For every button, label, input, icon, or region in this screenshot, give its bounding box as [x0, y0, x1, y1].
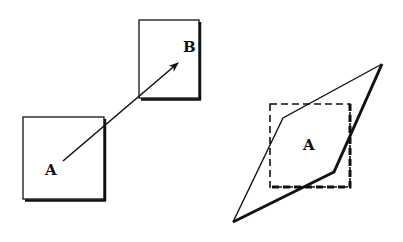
dashed-square-label: A [302, 136, 315, 154]
dashed-square: A [270, 104, 350, 187]
box-a-label: A [44, 161, 57, 179]
transformation-diagram: A B A [0, 0, 403, 242]
arrow-a-to-b [63, 63, 178, 161]
box-b-label: B [183, 38, 196, 56]
